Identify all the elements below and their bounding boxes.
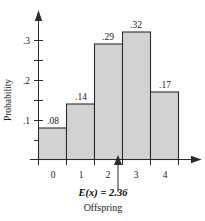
bar-2 (95, 44, 123, 160)
x-axis-arrowhead (192, 157, 201, 163)
histogram-chart: .3 .2 .1 Probability .08 .14 .29 .32 .17 (0, 0, 205, 221)
y-axis-arrowhead (36, 12, 42, 21)
figure-container: .3 .2 .1 Probability .08 .14 .29 .32 .17 (0, 0, 205, 221)
y-tick-label-01: .1 (23, 116, 30, 126)
bar-value-label-4: .17 (159, 80, 171, 90)
y-tick-label-02: .2 (23, 76, 30, 86)
x-axis-title: Offspring (84, 202, 123, 213)
x-tick-label-3: 3 (134, 170, 139, 180)
x-tick-label-0: 0 (51, 170, 56, 180)
bar-4 (151, 92, 179, 160)
x-tick-label-1: 1 (79, 170, 84, 180)
bar-value-label-2: .29 (102, 32, 114, 42)
y-tick-label-03: .3 (23, 36, 30, 46)
bar-value-label-3: .32 (130, 20, 142, 30)
bar-value-label-1: .14 (75, 92, 87, 102)
bar-value-label-0: .08 (47, 116, 59, 126)
y-axis-title: Probability (3, 79, 13, 121)
x-tick-label-4: 4 (163, 170, 168, 180)
x-tick-label-2: 2 (106, 170, 111, 180)
bars-group (39, 32, 179, 160)
bar-1 (67, 104, 95, 160)
bar-0 (39, 128, 67, 160)
bar-3 (123, 32, 151, 160)
x-axis-ticks (39, 160, 179, 166)
expected-value-caption: E(x) = 2.36 (78, 187, 129, 199)
